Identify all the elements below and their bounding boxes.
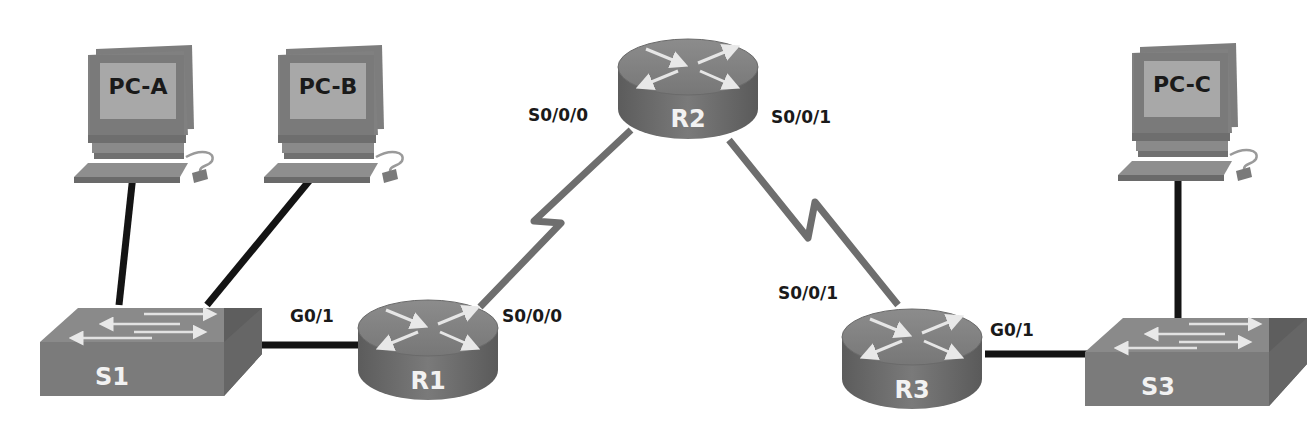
- pc-c-icon[interactable]: [1118, 43, 1257, 181]
- topology-diagram: PC-A PC-B PC-C S1 S3 R1 R2 R3 G0/1 S0/0/…: [0, 0, 1316, 430]
- pc-b-icon[interactable]: [264, 45, 403, 183]
- pc-a-label: PC-A: [78, 74, 198, 99]
- r2-s0-0-0-label: S0/0/0: [528, 105, 588, 125]
- r1-g0-1-label: G0/1: [290, 306, 334, 326]
- r3-s0-0-1-label: S0/0/1: [778, 283, 838, 303]
- switch-s3-label: S3: [1118, 373, 1198, 401]
- link-pcb-s1: [207, 175, 314, 305]
- router-r3-label: R3: [872, 376, 952, 404]
- router-r1-label: R1: [388, 367, 468, 395]
- pc-b-label: PC-B: [268, 74, 388, 99]
- pc-a-icon[interactable]: [74, 45, 213, 183]
- link-r1-r2-serial: [480, 130, 631, 307]
- switch-s1-label: S1: [72, 363, 152, 391]
- r1-s0-0-0-label: S0/0/0: [502, 306, 562, 326]
- router-r2-label: R2: [648, 105, 728, 133]
- link-pca-s1: [119, 175, 133, 305]
- pc-c-label: PC-C: [1122, 72, 1242, 97]
- r3-g0-1-label: G0/1: [990, 320, 1034, 340]
- link-r2-r3-serial: [729, 140, 898, 305]
- r2-s0-0-1-label: S0/0/1: [771, 107, 831, 127]
